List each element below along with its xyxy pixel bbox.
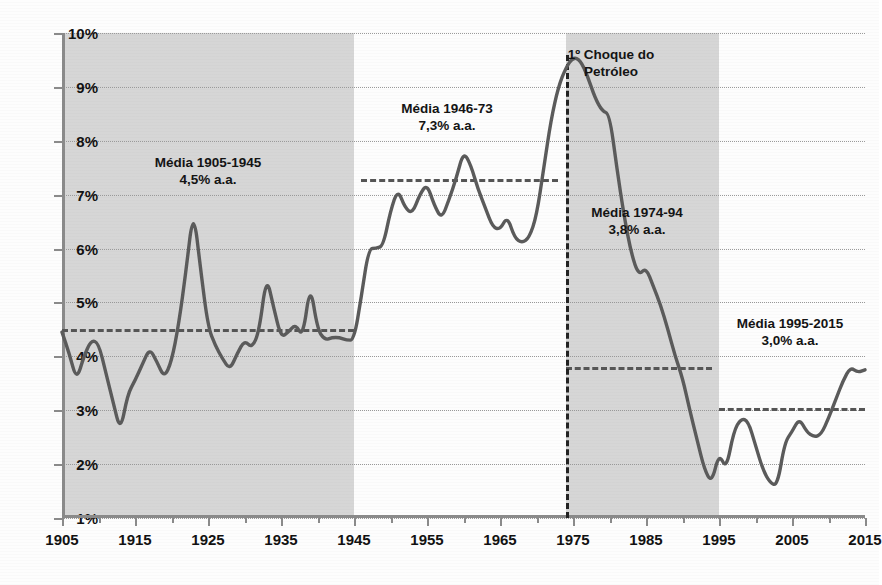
x-axis-minor-tick xyxy=(318,518,320,523)
x-axis-minor-tick xyxy=(464,518,466,523)
x-axis-label: 1965 xyxy=(483,531,516,548)
x-axis-tick xyxy=(865,518,867,526)
x-axis-minor-tick xyxy=(829,518,831,523)
x-axis-label: 2015 xyxy=(848,531,881,548)
x-axis-tick xyxy=(719,518,721,526)
x-axis-tick xyxy=(792,518,794,526)
x-axis-tick xyxy=(135,518,137,526)
annot-1974-94: Média 1974-943,8% a.a. xyxy=(591,205,683,239)
annot-1946-73: Média 1946-737,3% a.a. xyxy=(401,101,493,135)
annotation-line-1: 1º Choque do xyxy=(568,47,655,64)
x-axis-label: 1925 xyxy=(191,531,224,548)
x-axis-label: 1945 xyxy=(337,531,370,548)
x-axis-label: 1935 xyxy=(264,531,297,548)
x-axis-minor-tick xyxy=(391,518,393,523)
annotation-line-2: Petróleo xyxy=(568,64,655,81)
x-axis-label: 2005 xyxy=(775,531,808,548)
x-axis-label: 1915 xyxy=(118,531,151,548)
x-axis-label: 1975 xyxy=(556,531,589,548)
annotation-line-2: 3,0% a.a. xyxy=(737,333,844,350)
annotation-line-2: 3,8% a.a. xyxy=(591,222,683,239)
annotation-line-1: Média 1946-73 xyxy=(401,101,493,118)
x-axis-minor-tick xyxy=(610,518,612,523)
x-axis-tick xyxy=(62,518,64,526)
annotation-line-2: 7,3% a.a. xyxy=(401,118,493,135)
x-axis-tick xyxy=(427,518,429,526)
x-axis-tick xyxy=(646,518,648,526)
annotation-line-1: Média 1974-94 xyxy=(591,205,683,222)
x-axis-minor-tick xyxy=(99,518,101,523)
x-axis-label: 1985 xyxy=(629,531,662,548)
x-axis-tick xyxy=(573,518,575,526)
x-axis-tick xyxy=(281,518,283,526)
x-axis-minor-tick xyxy=(245,518,247,523)
annotation-line-1: Média 1905-1945 xyxy=(155,155,262,172)
x-axis-minor-tick xyxy=(756,518,758,523)
x-axis-label: 1995 xyxy=(702,531,735,548)
annotation-line-1: Média 1995-2015 xyxy=(737,316,844,333)
annotation-line-2: 4,5% a.a. xyxy=(155,172,262,189)
annot-choque-petroleo: 1º Choque doPetróleo xyxy=(568,47,655,81)
x-axis-minor-tick xyxy=(683,518,685,523)
annot-1905-1945: Média 1905-19454,5% a.a. xyxy=(155,155,262,189)
x-axis-label: 1905 xyxy=(45,531,78,548)
x-axis-minor-tick xyxy=(172,518,174,523)
annot-1995-2015: Média 1995-20153,0% a.a. xyxy=(737,316,844,350)
x-axis-label: 1955 xyxy=(410,531,443,548)
x-axis-minor-tick xyxy=(537,518,539,523)
x-axis-tick xyxy=(208,518,210,526)
x-axis-tick xyxy=(354,518,356,526)
x-axis-tick xyxy=(500,518,502,526)
